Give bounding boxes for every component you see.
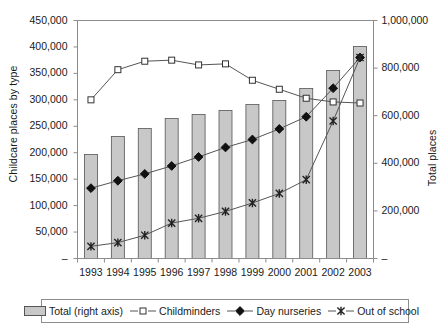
y-tick-label-left: 450,000 <box>8 14 68 26</box>
y-tick-label-left: – <box>8 252 68 264</box>
bar-1996 <box>165 119 178 259</box>
bar-1999 <box>246 105 259 259</box>
y-tick-label-right: 800,000 <box>382 61 446 73</box>
y-tick-label-left: 50,000 <box>8 225 68 237</box>
chart-legend: Total (right axis)ChildmindersDay nurser… <box>41 299 409 323</box>
marker-childminders-1995 <box>142 58 148 64</box>
marker-childminders-1997 <box>196 62 202 68</box>
y-tick-label-right: 200,000 <box>382 204 446 216</box>
y-tick-label-right: 400,000 <box>382 156 446 168</box>
legend-item-label: Childminders <box>159 305 220 317</box>
y-tick-label-right: – <box>382 252 446 264</box>
marker-childminders-2003 <box>357 100 363 106</box>
y-tick-label-left: 300,000 <box>8 93 68 105</box>
legend-filled-diamond-icon <box>227 305 253 317</box>
marker-childminders-1993 <box>88 97 94 103</box>
bar-1997 <box>192 115 205 259</box>
legend-item-day-nurseries: Day nurseries <box>227 305 328 317</box>
marker-childminders-2000 <box>276 86 282 92</box>
legend-item-childminders: Childminders <box>130 305 227 317</box>
y-tick-label-right: 1,000,000 <box>382 14 446 26</box>
marker-childminders-2002 <box>330 99 336 105</box>
y-tick-label-left: 400,000 <box>8 40 68 52</box>
marker-childminders-1996 <box>169 57 175 63</box>
bar-1998 <box>219 110 232 258</box>
chart-container: Childcare places by type Total places –5… <box>0 0 446 331</box>
y-tick-label-left: 200,000 <box>8 146 68 158</box>
legend-asterisk-icon <box>328 305 354 317</box>
legend-item-label: Total (right axis) <box>49 305 123 317</box>
legend-item-out-of-school: Out of school <box>328 305 426 317</box>
legend-item-label: Out of school <box>357 305 419 317</box>
legend-bar-swatch-icon <box>24 306 46 316</box>
marker-childminders-1994 <box>115 67 121 73</box>
marker-childminders-1999 <box>249 77 255 83</box>
marker-childminders-2001 <box>303 95 309 101</box>
y-tick-label-left: 150,000 <box>8 172 68 184</box>
y-tick-label-left: 350,000 <box>8 66 68 78</box>
y-tick-label-left: 250,000 <box>8 119 68 131</box>
y-tick-label-left: 100,000 <box>8 199 68 211</box>
legend-item-total-right-axis: Total (right axis) <box>24 305 130 317</box>
bar-2003 <box>354 46 367 258</box>
y-tick-label-right: 600,000 <box>382 109 446 121</box>
legend-open-square-icon <box>130 305 156 317</box>
legend-item-label: Day nurseries <box>256 305 321 317</box>
marker-childminders-1998 <box>223 61 229 67</box>
x-tick-label-2003: 2003 <box>340 266 380 278</box>
